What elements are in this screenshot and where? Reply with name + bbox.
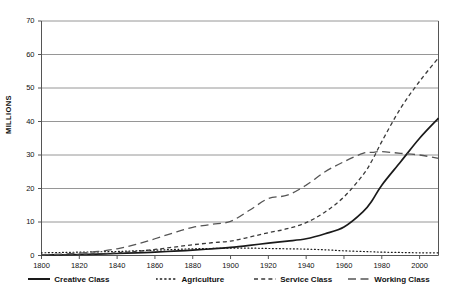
series-line: [42, 248, 439, 253]
legend-swatch-icon: [254, 275, 276, 283]
legend-swatch-icon: [348, 275, 370, 283]
legend-item: Working Class: [348, 275, 429, 284]
series-line: [42, 58, 439, 255]
plot-area: [0, 0, 458, 294]
legend-swatch-icon: [156, 275, 178, 283]
legend-item: Service Class: [254, 275, 332, 284]
legend-label: Service Class: [280, 275, 332, 284]
gridlines: [42, 21, 439, 222]
legend-item: Creative Class: [28, 275, 109, 284]
data-series: [42, 58, 439, 255]
legend-swatch-icon: [28, 275, 50, 283]
series-line: [42, 118, 439, 255]
tick-marks: [38, 21, 420, 259]
chart-figure: MILLIONS 010203040506070 180018201840186…: [0, 0, 458, 294]
legend-label: Working Class: [374, 275, 429, 284]
legend-label: Agriculture: [182, 275, 225, 284]
legend-item: Agriculture: [156, 275, 225, 284]
chart-legend: Creative ClassAgricultureService ClassWo…: [0, 271, 458, 287]
axis-lines: [42, 21, 439, 256]
legend-label: Creative Class: [54, 275, 109, 284]
